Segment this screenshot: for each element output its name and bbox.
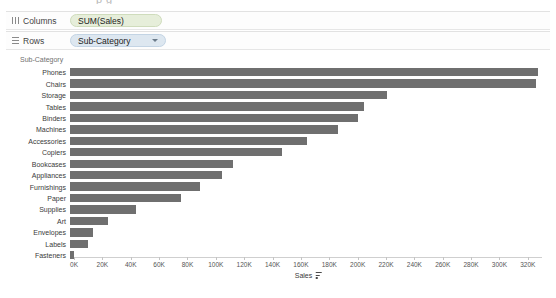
axis-tick-label: 0K	[70, 261, 78, 268]
shelf-area: Columns SUM(Sales) Rows Sub-Category	[6, 11, 550, 50]
chart-row: Tables	[6, 101, 550, 112]
axis-tick-label: 40K	[125, 261, 137, 268]
bar-paper[interactable]	[70, 194, 181, 202]
pill-sum-sales-label: SUM(Sales)	[78, 16, 124, 26]
chart-row: Chairs	[6, 78, 550, 89]
row-label-appliances[interactable]: Appliances	[6, 172, 70, 179]
axis-title-text: Sales	[295, 272, 313, 279]
bar-track	[70, 181, 550, 192]
axis-tick-label: 300K	[492, 261, 507, 268]
pill-sum-sales[interactable]: SUM(Sales)	[70, 14, 162, 27]
chart-row: Labels	[6, 239, 550, 250]
axis-tick-label: 160K	[293, 261, 308, 268]
rows-grid-icon	[12, 37, 19, 44]
row-label-labels[interactable]: Labels	[6, 241, 70, 248]
row-label-supplies[interactable]: Supplies	[6, 206, 70, 213]
bar-tables[interactable]	[70, 102, 364, 110]
row-label-tables[interactable]: Tables	[6, 104, 70, 111]
bar-bookcases[interactable]	[70, 160, 233, 168]
row-label-chairs[interactable]: Chairs	[6, 81, 70, 88]
row-label-paper[interactable]: Paper	[6, 195, 70, 202]
bar-track	[70, 136, 550, 147]
chart-row: Bookcases	[6, 159, 550, 170]
bar-track	[70, 204, 550, 215]
axis-tick	[131, 257, 132, 260]
axis-tick-label: 20K	[97, 261, 109, 268]
bar-track	[70, 227, 550, 238]
columns-shelf-label: Columns	[6, 16, 70, 26]
bar-storage[interactable]	[70, 91, 387, 99]
axis-tick	[273, 257, 274, 260]
bar-accessories[interactable]	[70, 137, 307, 145]
row-label-envelopes[interactable]: Envelopes	[6, 229, 70, 236]
axis-tick	[414, 257, 415, 260]
bar-track	[70, 101, 550, 112]
bar-envelopes[interactable]	[70, 228, 93, 236]
row-label-accessories[interactable]: Accessories	[6, 138, 70, 145]
chart-row: Storage	[6, 90, 550, 101]
rows-shelf[interactable]: Rows Sub-Category	[6, 31, 550, 50]
columns-shelf[interactable]: Columns SUM(Sales)	[6, 11, 550, 30]
bar-chart-plot: PhonesChairsStorageTablesBindersMachines…	[6, 67, 550, 263]
bar-track	[70, 113, 550, 124]
chart-row: Phones	[6, 67, 550, 78]
axis-tick-label: 80K	[182, 261, 194, 268]
chart-row: Envelopes	[6, 227, 550, 238]
row-label-binders[interactable]: Binders	[6, 115, 70, 122]
chevron-down-icon[interactable]	[152, 39, 158, 42]
axis-tick-label: 240K	[407, 261, 422, 268]
axis-tick	[187, 257, 188, 260]
axis-tick	[471, 257, 472, 260]
axis-tick	[74, 257, 75, 260]
row-label-copiers[interactable]: Copiers	[6, 149, 70, 156]
bar-track	[70, 67, 550, 78]
bar-art[interactable]	[70, 217, 108, 225]
axis-tick-label: 140K	[265, 261, 280, 268]
row-label-fasteners[interactable]: Fasteners	[6, 252, 70, 259]
bar-labels[interactable]	[70, 240, 88, 248]
row-label-furnishings[interactable]: Furnishings	[6, 184, 70, 191]
bar-track	[70, 193, 550, 204]
axis-tick-label: 220K	[378, 261, 393, 268]
axis-tick	[499, 257, 500, 260]
pill-sub-category[interactable]: Sub-Category	[70, 34, 166, 47]
bar-track	[70, 78, 550, 89]
chart-row: Machines	[6, 124, 550, 135]
axis-tick	[216, 257, 217, 260]
axis-title[interactable]: Sales	[295, 272, 322, 279]
axis-tick	[386, 257, 387, 260]
axis-tick	[159, 257, 160, 260]
bar-copiers[interactable]	[70, 148, 282, 156]
axis-tick	[358, 257, 359, 260]
row-field-header: Sub-Category	[20, 56, 63, 63]
x-axis: Sales 0K20K40K60K80K100K120K140K160K180K…	[74, 257, 542, 291]
rows-label-text: Rows	[23, 36, 44, 46]
sort-descending-icon[interactable]	[315, 272, 321, 279]
bar-appliances[interactable]	[70, 171, 222, 179]
top-cut-off-text: p g	[96, 0, 476, 4]
axis-tick-label: 100K	[208, 261, 223, 268]
pill-sub-category-label: Sub-Category	[78, 36, 130, 46]
row-label-phones[interactable]: Phones	[6, 69, 70, 76]
bar-chairs[interactable]	[70, 79, 536, 87]
bar-supplies[interactable]	[70, 205, 136, 213]
chart-row: Accessories	[6, 136, 550, 147]
axis-tick	[528, 257, 529, 260]
bar-binders[interactable]	[70, 114, 358, 122]
chart-row: Binders	[6, 113, 550, 124]
bar-phones[interactable]	[70, 68, 538, 76]
bar-track	[70, 147, 550, 158]
axis-tick	[443, 257, 444, 260]
row-label-storage[interactable]: Storage	[6, 92, 70, 99]
axis-tick	[244, 257, 245, 260]
axis-tick	[301, 257, 302, 260]
chart-row: Art	[6, 216, 550, 227]
columns-label-text: Columns	[23, 16, 57, 26]
chart-row: Appliances	[6, 170, 550, 181]
row-label-bookcases[interactable]: Bookcases	[6, 161, 70, 168]
chart-row: Paper	[6, 193, 550, 204]
bar-machines[interactable]	[70, 125, 338, 133]
row-label-machines[interactable]: Machines	[6, 126, 70, 133]
row-label-art[interactable]: Art	[6, 218, 70, 225]
bar-furnishings[interactable]	[70, 182, 200, 190]
